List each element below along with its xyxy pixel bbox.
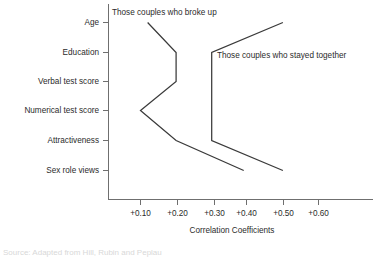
x-label-3: +0.40 bbox=[236, 209, 257, 218]
x-axis-ticks bbox=[141, 200, 319, 206]
x-label-2: +0.30 bbox=[204, 209, 225, 218]
axes-group bbox=[109, 4, 374, 200]
x-label-1: +0.20 bbox=[167, 209, 188, 218]
series-line-broke-up bbox=[141, 23, 244, 171]
x-label-5: +0.60 bbox=[308, 209, 329, 218]
y-label-sex-role-views: Sex role views bbox=[46, 166, 99, 175]
y-label-age: Age bbox=[84, 18, 99, 27]
annotation-stayed-together: Those couples who stayed together bbox=[217, 51, 347, 60]
x-label-4: +0.50 bbox=[273, 209, 294, 218]
y-label-verbal-test-score: Verbal test score bbox=[38, 77, 99, 86]
y-axis-ticks bbox=[103, 23, 109, 171]
annotation-broke-up: Those couples who broke up bbox=[112, 8, 217, 17]
x-label-0: +0.10 bbox=[130, 209, 151, 218]
correlation-line-chart: Age Education Verbal test score Numerica… bbox=[0, 0, 379, 258]
chart-figure: Age Education Verbal test score Numerica… bbox=[0, 0, 379, 258]
y-axis-labels: Age Education Verbal test score Numerica… bbox=[24, 18, 99, 175]
series-line-stayed-together bbox=[212, 23, 283, 171]
x-axis-title: Correlation Coefficients bbox=[190, 226, 275, 235]
y-label-education: Education bbox=[63, 48, 100, 57]
footer-partial-caption: Source: Adapted from Hill, Rubin and Pep… bbox=[3, 248, 162, 257]
y-label-numerical-test-score: Numerical test score bbox=[24, 106, 99, 115]
x-axis-labels: +0.10 +0.20 +0.30 +0.40 +0.50 +0.60 bbox=[130, 209, 329, 218]
y-label-attractiveness: Attractiveness bbox=[48, 136, 99, 145]
